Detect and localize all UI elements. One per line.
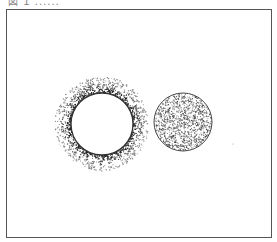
left-circle-outline: [71, 93, 133, 155]
stray-dot: [232, 143, 233, 144]
right-circle-speckle: [155, 94, 212, 151]
figure-canvas: [0, 0, 277, 242]
